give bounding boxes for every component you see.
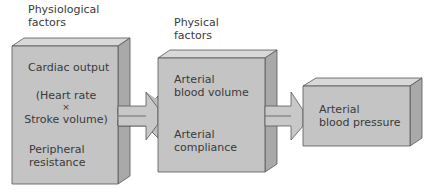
header-physiological-factors: Physiological factors: [28, 3, 99, 29]
header-physical-factors: Physical factors: [174, 16, 219, 42]
label-arterial-compliance: Arterial compliance: [174, 128, 237, 154]
label-peripheral-resistance: Peripheral resistance: [29, 143, 85, 169]
label-arterial-blood-pressure: Arterial blood pressure: [319, 103, 401, 129]
label-cardiac-output: Cardiac output: [28, 61, 109, 74]
label-formula: (Heart rate × Stroke volume): [14, 89, 118, 126]
label-arterial-blood-volume: Arterial blood volume: [174, 73, 249, 99]
